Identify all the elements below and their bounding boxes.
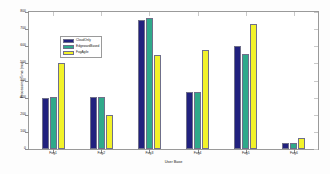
legend-swatch-edgewardbased [63,45,74,50]
chart-legend: CloudOnlyEdgewardBasedFogAgile [60,36,102,58]
y-tick-label: 600 [20,45,26,48]
legend-item-edgewardbased: EdgewardBased [63,45,99,50]
y-tick-label: 0 [24,147,26,150]
bar-group [77,12,125,149]
bar-fog4-edgewardbased [194,92,201,149]
bar-group [270,12,318,149]
legend-label: EdgewardBased [76,45,99,48]
bar-fog1-fogagile [58,63,65,149]
bar-fog5-cloudonly [234,46,241,149]
y-tick-label: 100 [20,130,26,133]
bar-fog3-edgewardbased [146,18,153,149]
bar-groups [29,12,318,149]
bar-group [29,12,77,149]
figure-canvas: 0100200300400500600700800 Fog1Fog2Fog3Fo… [0,0,330,174]
x-tick-label-fog3: Fog3 [146,152,154,155]
legend-swatch-cloudonly [63,39,74,44]
x-axis-title: User Base [28,161,319,165]
x-tick-label-fog6: Fog6 [290,152,298,155]
bar-fog5-fogagile [250,24,257,149]
x-tick-label-fog5: Fog5 [242,152,250,155]
bar-fog6-edgewardbased [290,143,297,149]
x-tick-label-fog4: Fog4 [194,152,202,155]
legend-label: CloudOnly [76,39,91,42]
legend-item-cloudonly: CloudOnly [63,39,99,44]
legend-label: FogAgile [76,51,89,54]
x-tick-label-fog2: Fog2 [97,152,105,155]
plot-area: 0100200300400500600700800 Fog1Fog2Fog3Fo… [28,11,319,150]
bar-fog1-cloudonly [42,98,49,149]
bar-fog2-cloudonly [90,97,97,149]
bar-fog4-fogagile [202,50,209,149]
bar-fog2-edgewardbased [98,97,105,149]
y-tick-label: 700 [20,27,26,30]
bar-fog1-edgewardbased [50,97,57,149]
bar-group [222,12,270,149]
legend-item-fogagile: FogAgile [63,51,99,56]
bar-fog6-cloudonly [282,143,289,149]
bar-fog3-fogagile [154,55,161,149]
bar-fog2-fogagile [106,115,113,149]
legend-swatch-fogagile [63,51,74,56]
bar-fog5-edgewardbased [242,54,249,149]
x-tick-label-fog1: Fog1 [49,152,57,155]
y-axis-title: Processing Time (ms) [21,62,25,99]
bar-fog3-cloudonly [138,20,145,149]
bar-fog4-cloudonly [186,92,193,149]
bar-fog6-fogagile [298,138,305,149]
bar-group [174,12,222,149]
bar-group [125,12,173,149]
y-tick-mark-right [314,149,318,150]
y-tick-label: 200 [20,113,26,116]
y-tick-label: 800 [20,10,26,13]
